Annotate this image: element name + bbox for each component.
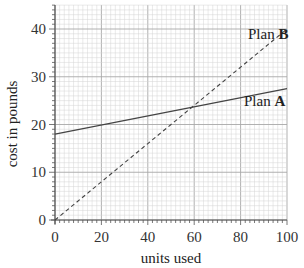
x-tick-label: 20 [94, 229, 109, 245]
x-tick-label: 80 [233, 229, 248, 245]
chart: 020406080100010203040 Plan APlan B units… [0, 0, 304, 268]
tick-labels: 020406080100010203040 [31, 21, 298, 245]
x-tick-label: 100 [276, 229, 299, 245]
x-tick-label: 60 [187, 229, 202, 245]
series-labels: Plan APlan B [244, 26, 288, 109]
x-tick-label: 40 [140, 229, 155, 245]
y-tick-label: 0 [39, 212, 47, 228]
x-tick-label: 0 [51, 229, 59, 245]
series-label-plan-a: Plan A [244, 93, 285, 109]
y-tick-label: 10 [31, 164, 46, 180]
y-tick-label: 30 [31, 69, 46, 85]
series-label-plan-b: Plan B [248, 26, 288, 42]
y-axis-label: cost in pounds [4, 81, 20, 168]
y-tick-label: 20 [31, 117, 46, 133]
y-tick-label: 40 [31, 21, 46, 37]
x-axis-label: units used [141, 250, 202, 266]
